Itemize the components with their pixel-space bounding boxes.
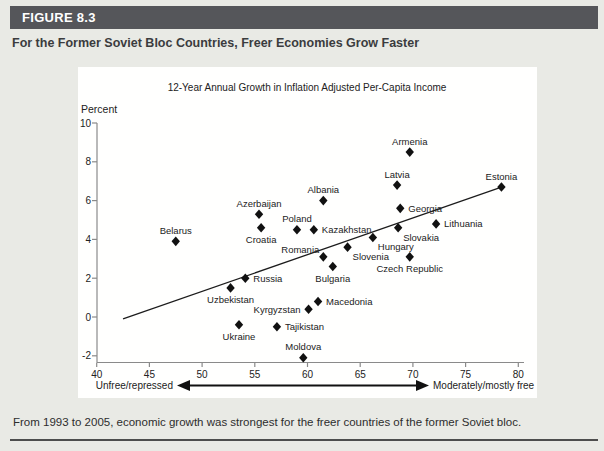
point-label-ukraine: Ukraine — [223, 331, 256, 342]
chart-panel: 12-Year Annual Growth in Inflation Adjus… — [78, 67, 537, 398]
arrow-label-right: Moderately/mostly free — [433, 380, 535, 391]
x-tick-label: 65 — [355, 369, 367, 380]
chart-title: 12-Year Annual Growth in Inflation Adjus… — [168, 82, 447, 93]
point-azerbaijan — [255, 209, 263, 219]
point-latvia — [393, 180, 401, 190]
y-tick-label: 8 — [85, 156, 91, 167]
y-axis-label: Percent — [81, 103, 117, 115]
point-label-lithuania: Lithuania — [444, 218, 483, 229]
y-tick-label: -2 — [82, 350, 91, 361]
point-label-uzbekistan: Uzbekistan — [207, 294, 254, 305]
x-tick-label: 45 — [144, 369, 156, 380]
y-tick-label: 4 — [85, 234, 91, 245]
point-moldova — [299, 353, 307, 363]
point-slovenia — [343, 242, 351, 252]
figure-label-bar: FIGURE 8.3 — [10, 6, 598, 29]
point-armenia — [406, 147, 414, 157]
x-tick-label: 50 — [197, 369, 209, 380]
y-tick-label: 6 — [85, 195, 91, 206]
arrow-left-icon — [177, 380, 190, 391]
y-tick-label: 2 — [85, 273, 91, 284]
point-estonia — [497, 182, 505, 192]
y-tick-label: 0 — [85, 312, 91, 323]
point-label-poland: Poland — [282, 213, 312, 224]
point-georgia — [396, 204, 404, 214]
point-label-slovakia: Slovakia — [403, 232, 440, 243]
point-bulgaria — [329, 262, 337, 272]
figure-title: For the Former Soviet Bloc Countries, Fr… — [12, 36, 419, 50]
point-label-tajikistan: Tajikistan — [285, 321, 324, 332]
point-label-slovenia: Slovenia — [353, 251, 390, 262]
point-kazakhstan — [310, 225, 318, 235]
point-label-georgia: Georgia — [408, 203, 443, 214]
point-ukraine — [235, 320, 243, 330]
scatter-chart: 12-Year Annual Growth in Inflation Adjus… — [78, 67, 537, 398]
bottom-rule — [10, 439, 598, 441]
y-tick-label: 10 — [80, 118, 92, 129]
point-tajikistan — [273, 322, 281, 332]
arrow-right-icon — [416, 380, 429, 391]
point-label-albania: Albania — [307, 184, 339, 195]
x-tick-label: 80 — [513, 369, 525, 380]
point-label-kazakhstan: Kazakhstan — [322, 224, 372, 235]
point-croatia — [257, 223, 265, 233]
point-uzbekistan — [226, 283, 234, 293]
point-label-moldova: Moldova — [285, 341, 322, 352]
point-label-romania: Romania — [281, 244, 320, 255]
x-tick-label: 60 — [302, 369, 314, 380]
point-label-belarus: Belarus — [160, 225, 192, 236]
x-tick-label: 75 — [460, 369, 472, 380]
point-label-latvia: Latvia — [384, 169, 410, 180]
x-tick-label: 40 — [91, 369, 103, 380]
point-lithuania — [432, 219, 440, 229]
point-albania — [319, 196, 327, 206]
point-belarus — [172, 237, 180, 247]
point-czech-republic — [406, 252, 414, 262]
point-label-hungary: Hungary — [378, 241, 414, 252]
figure-page: FIGURE 8.3 For the Former Soviet Bloc Co… — [0, 0, 604, 451]
point-macedonia — [314, 297, 322, 307]
figure-label: FIGURE 8.3 — [22, 10, 96, 25]
figure-caption: From 1993 to 2005, economic growth was s… — [13, 416, 521, 428]
point-label-macedonia: Macedonia — [326, 296, 373, 307]
arrow-label-left: Unfree/repressed — [96, 380, 173, 391]
point-label-kyrgyzstan: Kyrgyzstan — [254, 304, 301, 315]
x-tick-label: 70 — [407, 369, 419, 380]
point-label-croatia: Croatia — [246, 234, 277, 245]
point-romania — [319, 252, 327, 262]
point-poland — [293, 225, 301, 235]
point-label-czech-republic: Czech Republic — [376, 263, 443, 274]
point-label-armenia: Armenia — [392, 136, 428, 147]
point-label-azerbaijan: Azerbaijan — [237, 198, 282, 209]
point-kyrgyzstan — [304, 304, 312, 314]
point-label-bulgaria: Bulgaria — [315, 273, 351, 284]
x-tick-label: 55 — [249, 369, 261, 380]
point-label-estonia: Estonia — [486, 171, 518, 182]
point-label-russia: Russia — [253, 273, 283, 284]
